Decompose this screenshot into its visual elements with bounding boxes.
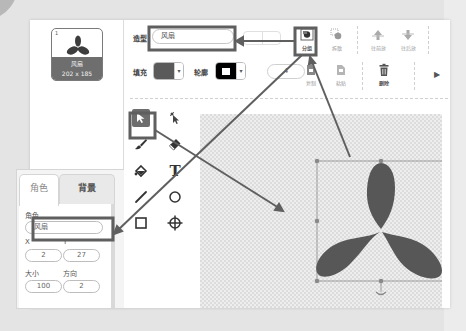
- center-tool[interactable]: [166, 214, 184, 232]
- rectangle-icon: [134, 216, 148, 230]
- costume-name-label: 造型: [133, 33, 147, 43]
- costume-tile-name: 风扇: [52, 59, 102, 69]
- ungroup-label: 拆散: [323, 44, 351, 51]
- circle-icon: [168, 190, 182, 204]
- copy-button[interactable]: 复制: [297, 63, 325, 86]
- costume-name-input[interactable]: 风扇: [152, 29, 234, 44]
- y-input[interactable]: 27: [63, 249, 100, 262]
- arrow-cursor-icon: [136, 112, 146, 124]
- costume-tile-size: 202 x 185: [52, 69, 102, 79]
- trash-icon: [377, 63, 391, 77]
- sprite-info-body: 角色 风扇 X Y 2 27 大小 方向 100 2: [19, 204, 115, 308]
- costume-info: 风扇 202 x 185: [52, 57, 102, 80]
- select-tool[interactable]: [132, 109, 150, 127]
- eraser-tool[interactable]: [166, 135, 184, 153]
- background-decoration: [0, 0, 19, 28]
- outline-color-picker[interactable]: ▾: [215, 62, 246, 80]
- group-label: 分组: [293, 44, 321, 51]
- outline-color-swatch: [216, 63, 236, 79]
- reshape-cursor-icon: [168, 111, 182, 125]
- ungroup-button[interactable]: 拆散: [323, 28, 351, 51]
- line-icon: [134, 190, 148, 204]
- backward-label: 往后放: [394, 44, 422, 51]
- delete-button[interactable]: 删除: [370, 63, 398, 86]
- backward-button[interactable]: 往后放: [394, 28, 422, 51]
- divider: [428, 26, 429, 54]
- more-arrow-icon[interactable]: ▶: [434, 70, 440, 79]
- size-label: 大小: [25, 268, 39, 278]
- costume-tile[interactable]: 1 风扇 202 x 185: [51, 28, 103, 81]
- copy-icon: [304, 63, 318, 77]
- forward-button[interactable]: 往前放: [364, 28, 392, 51]
- arrow-up-icon: [371, 28, 385, 42]
- text-tool[interactable]: T: [166, 162, 184, 180]
- flip-buttons[interactable]: [243, 31, 281, 45]
- delete-label: 删除: [370, 79, 398, 86]
- crosshair-icon: [167, 215, 183, 231]
- line-tool[interactable]: [132, 188, 150, 206]
- paste-label: 粘贴: [327, 79, 355, 86]
- eraser-icon: [168, 137, 182, 151]
- group-button[interactable]: 分组: [293, 28, 321, 51]
- sprite-info-panel: 角色 背景 角色 风扇 X Y 2 27 大小 方向 100 2: [16, 169, 126, 309]
- divider: [362, 62, 363, 90]
- tab-backdrop[interactable]: 背景: [59, 174, 115, 204]
- group-icon: [300, 28, 314, 42]
- fan-shape[interactable]: [200, 114, 442, 308]
- tools-palette: T: [124, 102, 198, 308]
- size-input[interactable]: 100: [25, 280, 62, 293]
- arrow-down-icon: [401, 28, 415, 42]
- outline-label: 轮廓: [194, 67, 208, 77]
- fill-color-picker[interactable]: ▾: [153, 62, 184, 80]
- forward-label: 往前放: [364, 44, 392, 51]
- y-label: Y: [63, 238, 67, 246]
- sprite-name-label: 角色: [25, 210, 39, 220]
- sprite-name-input[interactable]: 风扇: [25, 221, 103, 234]
- fan-thumbnail-icon: [66, 35, 90, 57]
- brush-tool[interactable]: [132, 135, 150, 153]
- tab-sprite[interactable]: 角色: [19, 174, 59, 206]
- direction-label: 方向: [63, 268, 77, 278]
- direction-input[interactable]: 2: [63, 280, 100, 293]
- fill-label: 填充: [133, 67, 147, 77]
- toolbar-divider: [130, 98, 448, 99]
- paint-bucket-icon: [134, 164, 148, 178]
- drawing-canvas[interactable]: [200, 114, 442, 308]
- fill-color-swatch: [154, 63, 174, 79]
- paste-button[interactable]: 粘贴: [327, 63, 355, 86]
- text-icon: T: [169, 162, 180, 180]
- rectangle-tool[interactable]: [132, 214, 150, 232]
- x-label: X: [25, 238, 30, 246]
- chevron-down-icon: ▾: [174, 63, 183, 79]
- x-input[interactable]: 2: [25, 249, 62, 262]
- divider: [414, 62, 415, 90]
- ungroup-icon: [330, 28, 344, 42]
- divider: [357, 26, 358, 54]
- paste-icon: [334, 63, 348, 77]
- reshape-tool[interactable]: [166, 109, 184, 127]
- fill-tool[interactable]: [132, 162, 150, 180]
- copy-label: 复制: [297, 79, 325, 86]
- chevron-down-icon: ▾: [236, 63, 245, 79]
- paint-editor-window: 1 风扇 202 x 185 角色 背景 角色 风扇 X Y 2 27 大小 方…: [30, 20, 450, 308]
- brush-icon: [134, 137, 148, 151]
- circle-tool[interactable]: [166, 188, 184, 206]
- costume-index: 1: [55, 30, 58, 36]
